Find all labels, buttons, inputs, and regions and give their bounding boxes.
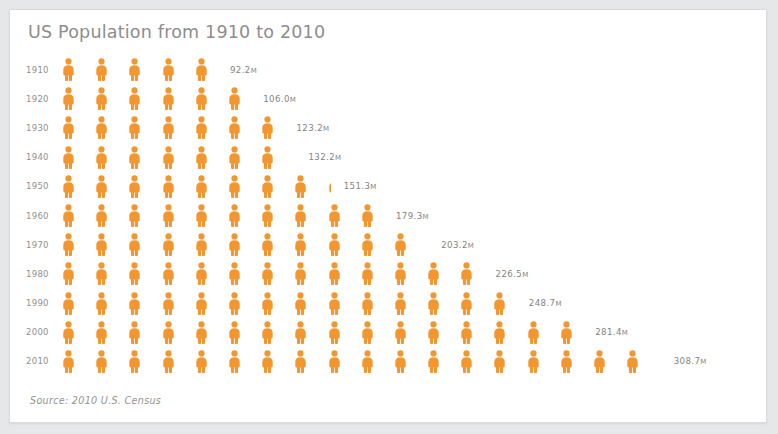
value-unit: M <box>335 154 341 162</box>
person-icon <box>93 58 110 81</box>
year-label: 1930 <box>26 123 58 133</box>
person-icon-partial <box>326 175 331 198</box>
person-icon <box>93 321 110 344</box>
value-unit: M <box>370 183 376 191</box>
icon-group <box>60 143 304 172</box>
person-icon <box>425 321 442 344</box>
person-icon <box>93 204 110 227</box>
person-icon <box>292 233 309 256</box>
year-label: 1920 <box>26 94 58 104</box>
person-icon <box>458 292 475 315</box>
person-icon <box>425 292 442 315</box>
value-number: 92.2 <box>230 65 251 75</box>
pictogram-row: 2000281.4M <box>10 318 766 347</box>
person-icon <box>160 146 177 169</box>
pictogram-row: 1990248.7M <box>10 289 766 318</box>
value-unit: M <box>290 96 296 104</box>
person-icon <box>491 350 508 373</box>
icon-group <box>60 113 292 142</box>
person-icon <box>591 350 608 373</box>
pictogram-row: 1960179.3M <box>10 201 766 230</box>
value-label: 151.3M <box>344 181 377 191</box>
person-icon <box>126 262 143 285</box>
person-icon <box>193 350 210 373</box>
person-icon <box>226 87 243 110</box>
value-label: 132.2M <box>308 152 341 162</box>
pictogram-row: 1930123.2M <box>10 113 766 142</box>
person-icon <box>160 116 177 139</box>
icon-group <box>60 55 226 84</box>
person-icon <box>226 146 243 169</box>
person-icon <box>93 233 110 256</box>
person-icon <box>193 58 210 81</box>
person-icon <box>259 116 276 139</box>
year-label: 1970 <box>26 240 58 250</box>
person-icon <box>558 321 575 344</box>
value-number: 106.0 <box>263 94 290 104</box>
value-number: 179.3 <box>396 211 423 221</box>
person-icon <box>292 350 309 373</box>
icon-group <box>60 318 591 347</box>
person-icon-partial <box>657 350 660 373</box>
person-icon <box>359 321 376 344</box>
value-label: 203.2M <box>441 240 474 250</box>
value-label: 308.7M <box>674 356 707 366</box>
person-icon <box>425 262 442 285</box>
person-icon <box>60 321 77 344</box>
person-icon <box>458 321 475 344</box>
pictogram-row: 1970203.2M <box>10 230 766 259</box>
icon-group <box>60 289 525 318</box>
icon-group <box>60 84 259 113</box>
person-icon <box>126 204 143 227</box>
value-unit: M <box>555 300 561 308</box>
person-icon <box>126 116 143 139</box>
person-icon <box>160 204 177 227</box>
person-icon <box>259 175 276 198</box>
person-icon <box>60 116 77 139</box>
person-icon <box>326 321 343 344</box>
value-label: 281.4M <box>595 327 628 337</box>
person-icon <box>359 204 376 227</box>
value-number: 151.3 <box>344 181 371 191</box>
person-icon <box>425 350 442 373</box>
person-icon <box>226 233 243 256</box>
person-icon <box>259 321 276 344</box>
person-icon <box>392 350 409 373</box>
person-icon <box>392 233 409 256</box>
person-icon <box>60 262 77 285</box>
value-number: 132.2 <box>308 152 335 162</box>
person-icon <box>160 292 177 315</box>
value-label: 123.2M <box>296 123 329 133</box>
person-icon <box>126 292 143 315</box>
year-label: 1950 <box>26 181 58 191</box>
person-icon <box>193 321 210 344</box>
person-icon <box>292 262 309 285</box>
page-title: US Population from 1910 to 2010 <box>28 22 325 42</box>
value-label: 179.3M <box>396 211 429 221</box>
person-icon <box>193 87 210 110</box>
person-icon <box>126 58 143 81</box>
person-icon <box>160 58 177 81</box>
page-background: US Population from 1910 to 2010 191092.2… <box>0 0 778 434</box>
icon-group <box>60 230 437 259</box>
value-label: 226.5M <box>496 269 529 279</box>
person-icon <box>558 350 575 373</box>
year-label: 1960 <box>26 211 58 221</box>
pictogram-row: 1920106.0M <box>10 84 766 113</box>
person-icon <box>160 87 177 110</box>
person-icon <box>93 116 110 139</box>
value-unit: M <box>622 329 628 337</box>
person-icon <box>359 262 376 285</box>
person-icon <box>193 262 210 285</box>
person-icon <box>491 321 508 344</box>
person-icon <box>226 262 243 285</box>
person-icon <box>624 350 641 373</box>
person-icon-partial <box>292 146 295 169</box>
person-icon <box>259 292 276 315</box>
person-icon <box>292 175 309 198</box>
person-icon <box>392 321 409 344</box>
person-icon <box>326 262 343 285</box>
person-icon <box>93 350 110 373</box>
person-icon <box>60 87 77 110</box>
person-icon <box>126 321 143 344</box>
